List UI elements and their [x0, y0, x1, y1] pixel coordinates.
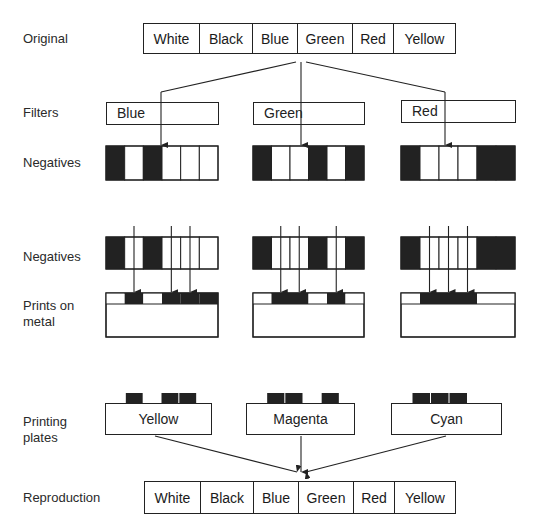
negatives-row-2 [106, 237, 515, 269]
print-green [253, 293, 364, 337]
print-red [401, 293, 515, 337]
negative-green [253, 146, 364, 180]
diagram-graphics [0, 0, 538, 529]
negative-red [401, 146, 515, 180]
plate-relief [126, 393, 467, 403]
plate-relief-2 [413, 393, 468, 403]
plate-relief-0 [126, 393, 196, 403]
prints-on-metal [106, 293, 515, 337]
plate-relief-1 [267, 393, 339, 403]
negative-exposure-blue [106, 237, 218, 269]
negative-exposure-green [253, 237, 364, 269]
negative-blue [106, 146, 218, 180]
negative-exposure-red [401, 237, 515, 269]
negatives-row-1 [106, 146, 515, 180]
print-blue [106, 293, 218, 337]
